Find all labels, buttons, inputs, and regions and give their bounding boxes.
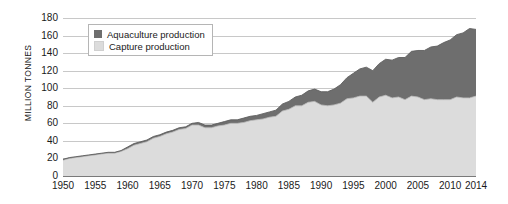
x-tick-label-2000: 2000	[375, 180, 397, 192]
y-tick-label-40: 40	[47, 136, 58, 146]
x-tick-label-1985: 1985	[278, 180, 300, 192]
legend-label-aquaculture: Aquaculture production	[107, 29, 205, 40]
y-tick-label-120: 120	[41, 66, 58, 76]
x-tick-label-1955: 1955	[84, 180, 106, 192]
fishery-production-area-chart: MILLION TONNES 020406080100120140160180 …	[0, 0, 508, 204]
y-tick-label-160: 160	[41, 31, 58, 41]
x-tick-label-1995: 1995	[342, 180, 364, 192]
legend-swatch-aquaculture-icon	[94, 30, 102, 38]
legend-label-capture: Capture production	[109, 41, 190, 52]
chart-legend: Aquaculture production Capture productio…	[88, 24, 213, 56]
legend-swatch-capture-icon	[94, 41, 104, 51]
legend-item-capture: Capture production	[94, 40, 205, 52]
y-tick-label-100: 100	[41, 83, 58, 93]
capture-production-area	[63, 95, 476, 176]
x-tick-label-1990: 1990	[310, 180, 332, 192]
x-tick-label-1980: 1980	[245, 180, 267, 192]
y-tick-label-60: 60	[47, 118, 58, 128]
y-tick-label-80: 80	[47, 101, 58, 111]
x-tick-label-2005: 2005	[407, 180, 429, 192]
x-tick-label-1965: 1965	[149, 180, 171, 192]
y-tick-label-180: 180	[41, 13, 58, 23]
y-tick-label-140: 140	[41, 48, 58, 58]
x-tick-label-1960: 1960	[116, 180, 138, 192]
y-tick-label-20: 20	[47, 153, 58, 163]
legend-item-aquaculture: Aquaculture production	[94, 28, 205, 40]
x-tick-label-2014: 2014	[465, 180, 487, 192]
gridline-0	[63, 176, 476, 177]
x-tick-label-1975: 1975	[213, 180, 235, 192]
y-axis-tick-labels: 020406080100120140160180	[24, 0, 58, 204]
x-tick-label-2010: 2010	[439, 180, 461, 192]
x-axis-tick-labels: 1950195519601965197019751980198519901995…	[0, 180, 508, 196]
x-tick-label-1950: 1950	[52, 180, 74, 192]
x-tick-label-1970: 1970	[181, 180, 203, 192]
